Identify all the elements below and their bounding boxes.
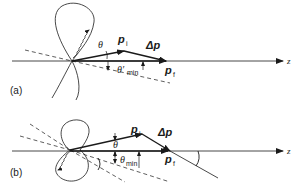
theta-min-label-a: θ′ min xyxy=(117,64,138,76)
svg-text:θ′: θ′ xyxy=(117,64,125,75)
p-initial-label-b: p i xyxy=(130,123,141,137)
delta-p-extension-b xyxy=(170,151,218,178)
theta-min-label-b: θ min xyxy=(120,154,137,167)
svg-text:p: p xyxy=(130,123,138,135)
svg-text:min: min xyxy=(127,69,138,76)
dashed-line-b-2 xyxy=(20,136,70,150)
panel-label-a: (a) xyxy=(10,85,22,96)
dashed-line-a-upper xyxy=(25,50,72,61)
panel-a: z θ p i Δp p f θ′ min xyxy=(10,3,291,100)
panel-b: z θ p i Δp p xyxy=(10,120,291,182)
radiation-lobe-a-upper xyxy=(55,3,94,61)
radiation-lobe-a-lower xyxy=(52,61,79,100)
p-final-label-b: p f xyxy=(164,153,175,167)
vector-delta-p-a xyxy=(124,51,166,61)
svg-text:p: p xyxy=(164,153,172,165)
photon-wave-b xyxy=(58,151,70,170)
svg-text:f: f xyxy=(173,71,175,78)
z-axis-label-a: z xyxy=(286,56,291,66)
vector-p-initial-b xyxy=(70,134,142,150)
svg-text:θ: θ xyxy=(120,154,125,165)
scattering-diagram: z θ p i Δp p f θ′ min xyxy=(0,0,301,196)
p-final-label-a: p f xyxy=(164,64,175,78)
photon-wave-a xyxy=(73,30,89,58)
delta-p-label-b: Δp xyxy=(157,126,172,138)
panel-label-b: (b) xyxy=(10,167,22,178)
svg-text:p: p xyxy=(164,64,172,76)
svg-text:f: f xyxy=(173,160,175,167)
svg-text:min: min xyxy=(126,160,137,167)
svg-text:i: i xyxy=(139,130,141,137)
theta-label-a: θ xyxy=(98,39,103,50)
theta-label-b: θ xyxy=(113,139,118,150)
vector-p-initial-a xyxy=(72,51,124,61)
p-initial-label-a: p i xyxy=(117,33,128,47)
dashed-line-b-3 xyxy=(70,150,125,182)
svg-text:p: p xyxy=(117,33,125,45)
exit-angle-arc-b xyxy=(196,151,199,166)
delta-p-label-a: Δp xyxy=(145,39,160,51)
dashed-line-b-1 xyxy=(30,124,70,150)
z-axis-label-b: z xyxy=(286,146,291,156)
svg-text:i: i xyxy=(126,40,128,47)
